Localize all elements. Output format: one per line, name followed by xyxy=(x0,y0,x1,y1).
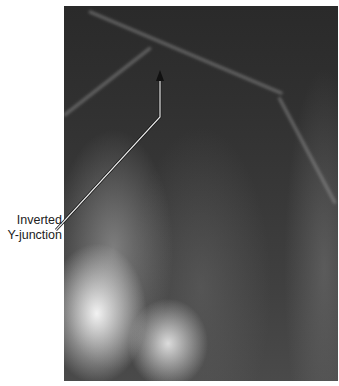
annotation-line1: Inverted xyxy=(4,213,62,228)
annotation-line2: Y-junction xyxy=(4,228,62,243)
annotation-label: Inverted Y-junction xyxy=(4,213,62,243)
leader-arrow xyxy=(0,0,339,386)
